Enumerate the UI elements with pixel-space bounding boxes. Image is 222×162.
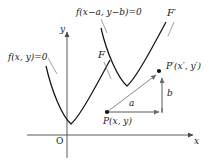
leader-line-f-prime (168, 22, 174, 36)
label-point-original: P(x, y) (103, 117, 132, 126)
label-shift-vertical: b (167, 89, 173, 98)
label-axis-x: x (194, 137, 199, 146)
label-origin: O (56, 137, 63, 146)
label-axis-y: y (60, 25, 65, 34)
curve-f-translated (101, 22, 166, 86)
label-curve-name-translated: F′ (167, 8, 176, 18)
point-p-marker (105, 110, 109, 114)
leader-line-original (48, 58, 57, 74)
label-point-translated: P′(x′, y′) (166, 62, 201, 71)
curve-f-original (46, 60, 110, 124)
label-curve-original: f(x, y)=0 (8, 53, 48, 62)
diagram-canvas (0, 0, 222, 162)
translation-diagram: f(x−a, y−b)=0 f(x, y)=0 F′ F P′(x′, y′) … (0, 0, 222, 162)
label-shift-horizontal: a (129, 99, 134, 108)
point-p-prime-marker (157, 69, 161, 73)
label-curve-name-original: F (98, 50, 105, 60)
label-curve-translated: f(x−a, y−b)=0 (76, 8, 142, 17)
